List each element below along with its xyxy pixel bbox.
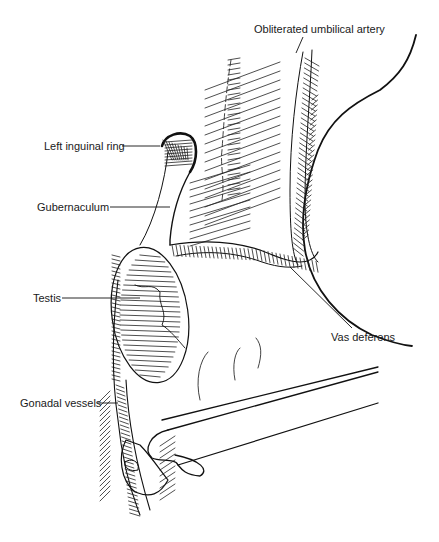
hatch-stroke — [165, 161, 192, 163]
hatch-stroke — [205, 116, 280, 144]
hatch-stroke — [160, 448, 175, 458]
hatch-stroke — [228, 138, 240, 140]
hatch-stroke — [100, 476, 110, 486]
hatch-stroke — [121, 433, 130, 436]
hatch-stroke — [100, 421, 110, 431]
hatch-stroke — [100, 461, 110, 471]
hatch-stroke — [120, 421, 129, 424]
hatch-stroke — [228, 58, 240, 60]
hatch-stroke — [100, 396, 110, 406]
testis-hatching — [112, 255, 180, 381]
hatch-stroke — [140, 255, 160, 257]
hatch-stroke — [204, 247, 206, 258]
hatch-stroke — [123, 340, 178, 342]
label-gubernaculum: Gubernaculum — [37, 201, 109, 213]
leader-vas-deferens — [290, 267, 352, 328]
hatch-stroke — [244, 249, 246, 260]
hatch-stroke — [316, 261, 318, 272]
hatch-stroke — [116, 389, 124, 392]
hatch-stroke — [120, 305, 179, 307]
hatch-stroke — [119, 413, 127, 416]
hatch-stroke — [120, 320, 180, 322]
hatch-stroke — [228, 93, 240, 95]
hatch-stroke — [112, 263, 120, 265]
hatch-stroke — [205, 80, 280, 108]
hatch-stroke — [190, 165, 250, 183]
hatch-stroke — [100, 471, 110, 481]
hatch-stroke — [125, 280, 175, 282]
hatch-stroke — [100, 426, 110, 436]
hatch-stroke — [125, 350, 175, 352]
hatch-stroke — [256, 249, 258, 260]
hatch-stroke — [228, 173, 240, 175]
hatch-stroke — [284, 255, 286, 266]
hatch-stroke — [123, 290, 178, 292]
hatch-stroke — [121, 429, 130, 432]
label-vas-deferens: Vas deferens — [331, 331, 395, 343]
hatch-stroke — [205, 71, 280, 99]
hatch-stroke — [123, 449, 132, 452]
hatch-stroke — [129, 270, 171, 272]
hatch-stroke — [205, 107, 280, 135]
hatch-stroke — [205, 89, 280, 117]
hatch-stroke — [304, 259, 306, 270]
hatch-stroke — [160, 460, 175, 470]
hatch-stroke — [311, 110, 317, 115]
hatch-stroke — [228, 153, 240, 155]
hatch-stroke — [228, 108, 240, 110]
hatch-stroke — [120, 325, 179, 327]
hatch-stroke — [312, 100, 318, 105]
hatch-stroke — [100, 446, 110, 456]
label-gonadal-vessels: Gonadal vessels — [20, 397, 101, 409]
hatch-stroke — [117, 393, 125, 396]
hatch-stroke — [112, 315, 120, 317]
hatch-stroke — [236, 248, 238, 259]
hatch-stroke — [140, 375, 160, 377]
hatch-stroke — [160, 466, 175, 476]
hatch-stroke — [100, 406, 110, 416]
vas-hatching — [172, 245, 318, 272]
hatch-stroke — [300, 258, 302, 269]
hatch-stroke — [128, 501, 138, 504]
hatch-stroke — [112, 287, 120, 289]
hatch-stroke — [176, 245, 178, 256]
hatch-stroke — [280, 254, 282, 265]
hatch-stroke — [165, 164, 192, 166]
hatch-stroke — [232, 248, 234, 259]
hatch-stroke — [129, 360, 171, 362]
hatch-stroke — [100, 466, 110, 476]
ring-hatching — [163, 140, 192, 166]
hatch-stroke — [100, 391, 110, 401]
hatch-stroke — [190, 179, 250, 197]
hatch-stroke — [120, 310, 180, 312]
hatch-stroke — [100, 451, 110, 461]
hatch-stroke — [172, 245, 174, 256]
hatch-stroke — [312, 95, 318, 100]
hatch-stroke — [132, 365, 168, 367]
hatch-stroke — [120, 315, 180, 317]
hatch-stroke — [205, 197, 280, 225]
hatch-stroke — [112, 255, 120, 257]
hatch-stroke — [130, 513, 140, 516]
hatch-stroke — [100, 441, 110, 451]
hatch-stroke — [118, 405, 126, 408]
hatch-stroke — [228, 163, 240, 165]
hatch-stroke — [228, 83, 240, 85]
hatch-stroke — [311, 105, 317, 110]
hatch-stroke — [132, 265, 168, 267]
hatch-stroke — [165, 149, 192, 151]
hatch-stroke — [112, 259, 120, 261]
hatch-stroke — [100, 416, 110, 426]
clip-applier-shaft — [162, 367, 378, 465]
hatch-stroke — [127, 355, 173, 357]
hatch-stroke — [190, 221, 250, 239]
label-obliterated-umbilical-artery: Obliterated umbilical artery — [254, 23, 385, 35]
hatch-stroke — [127, 275, 173, 277]
hatch-stroke — [135, 370, 165, 372]
hatch-stroke — [160, 490, 175, 500]
hatch-stroke — [165, 143, 192, 145]
hatch-stroke — [128, 497, 138, 500]
clip-applier-jaw — [148, 430, 204, 476]
hatch-stroke — [160, 442, 175, 452]
anatomy-illustration — [0, 0, 439, 542]
